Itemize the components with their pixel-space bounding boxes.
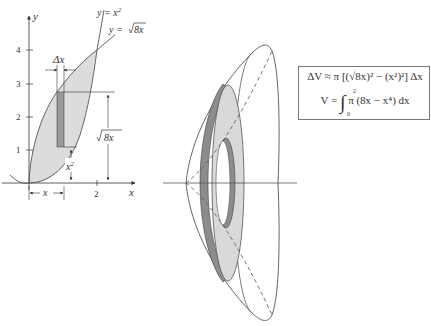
x-tick-2: 2 (94, 189, 99, 199)
svg-text:8x: 8x (134, 24, 144, 35)
lower-limit: 0 (347, 111, 350, 117)
root-curve-label: y = 8x (108, 23, 146, 35)
volume-element-formula: ΔV ≈ π [(√8x)² − (x²)²] Δx (299, 70, 431, 82)
svg-text:y =: y = (108, 24, 123, 35)
y-tick-3: 3 (16, 79, 21, 89)
delta-x-label: Δx (52, 53, 64, 65)
y-tick-1: 1 (16, 145, 21, 155)
sqrt-8x-label: 8x (96, 128, 124, 144)
y-tick-2: 2 (16, 112, 21, 122)
x-axis-label: x (128, 186, 134, 198)
solid-of-revolution (163, 45, 297, 320)
strip-rectangle (57, 92, 64, 147)
y-axis-label: y (32, 10, 38, 22)
parabola-label: y = x2 (96, 6, 122, 18)
diagram-canvas: 1 2 3 4 2 y x y = x2 y = 8x Δx 8x (0, 0, 431, 326)
formula-box: ΔV ≈ π [(√8x)² − (x²)²] Δx V = ∫20 π (8x… (298, 66, 430, 120)
y-tick-4: 4 (16, 45, 21, 55)
x-distance-label: x (42, 187, 48, 198)
svg-text:8x: 8x (104, 132, 114, 143)
integral-sign: ∫ (340, 91, 345, 113)
left-graph: 1 2 3 4 2 y x y = x2 y = 8x Δx 8x (2, 6, 146, 200)
upper-limit: 2 (353, 88, 356, 94)
volume-integral-formula: V = ∫20 π (8x − x⁴) dx (299, 91, 431, 114)
